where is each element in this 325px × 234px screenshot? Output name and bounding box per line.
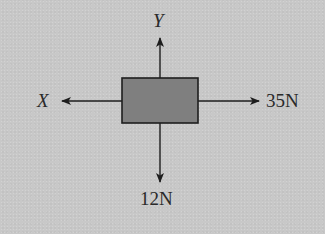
free-body-diagram: Y X 35N 12N <box>0 0 325 234</box>
force-label-y: Y <box>153 11 164 30</box>
force-label-35n: 35N <box>266 91 299 110</box>
force-label-x: X <box>37 91 49 110</box>
force-label-12n: 12N <box>140 189 173 208</box>
object-box <box>122 78 198 123</box>
